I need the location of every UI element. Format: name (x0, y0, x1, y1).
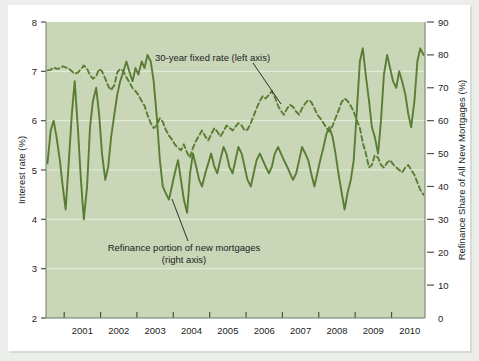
left-tick-label: 6 (32, 115, 37, 126)
right-tick-label: 50 (438, 148, 449, 159)
right-tick-label: 90 (438, 17, 449, 28)
left-tick-label: 8 (32, 17, 37, 28)
right-tick-label: 30 (438, 214, 449, 225)
left-axis-label: Interest rate (%) (16, 136, 27, 204)
x-tick-label: 2003 (145, 325, 166, 336)
left-tick-label: 7 (32, 66, 37, 77)
annotation-refinance-line2: (right axis) (162, 254, 206, 265)
annotation-fixed-rate: 30-year fixed rate (left axis) (155, 52, 270, 63)
x-tick-label: 2009 (363, 325, 384, 336)
x-tick-label: 2010 (399, 325, 420, 336)
right-tick-label: 0 (438, 313, 443, 324)
left-tick-label: 3 (32, 263, 37, 274)
right-tick-label: 80 (438, 49, 449, 60)
x-tick-label: 2008 (326, 325, 347, 336)
left-axis-ticks: 2345678 (32, 17, 46, 324)
left-tick-label: 4 (32, 214, 37, 225)
x-tick-label: 2006 (254, 325, 275, 336)
x-tick-label: 2002 (108, 325, 129, 336)
x-tick-label: 2001 (72, 325, 93, 336)
right-tick-label: 40 (438, 181, 449, 192)
right-tick-label: 20 (438, 247, 449, 258)
right-tick-label: 10 (438, 280, 449, 291)
x-tick-label: 2007 (290, 325, 311, 336)
left-tick-label: 2 (32, 313, 37, 324)
chart-figure: 2345678 0102030405060708090 200120022003… (0, 0, 479, 361)
right-axis-ticks: 0102030405060708090 (427, 17, 449, 324)
right-tick-label: 70 (438, 82, 449, 93)
x-tick-label: 2005 (217, 325, 238, 336)
right-tick-label: 60 (438, 115, 449, 126)
x-tick-label: 2004 (181, 325, 202, 336)
annotation-refinance-line1: Refinance portion of new mortgages (108, 242, 261, 253)
right-axis-label: Refinance Share of All New Mortgages (%) (456, 80, 467, 261)
left-tick-label: 5 (32, 165, 37, 176)
chart-svg: 2345678 0102030405060708090 200120022003… (0, 0, 479, 361)
